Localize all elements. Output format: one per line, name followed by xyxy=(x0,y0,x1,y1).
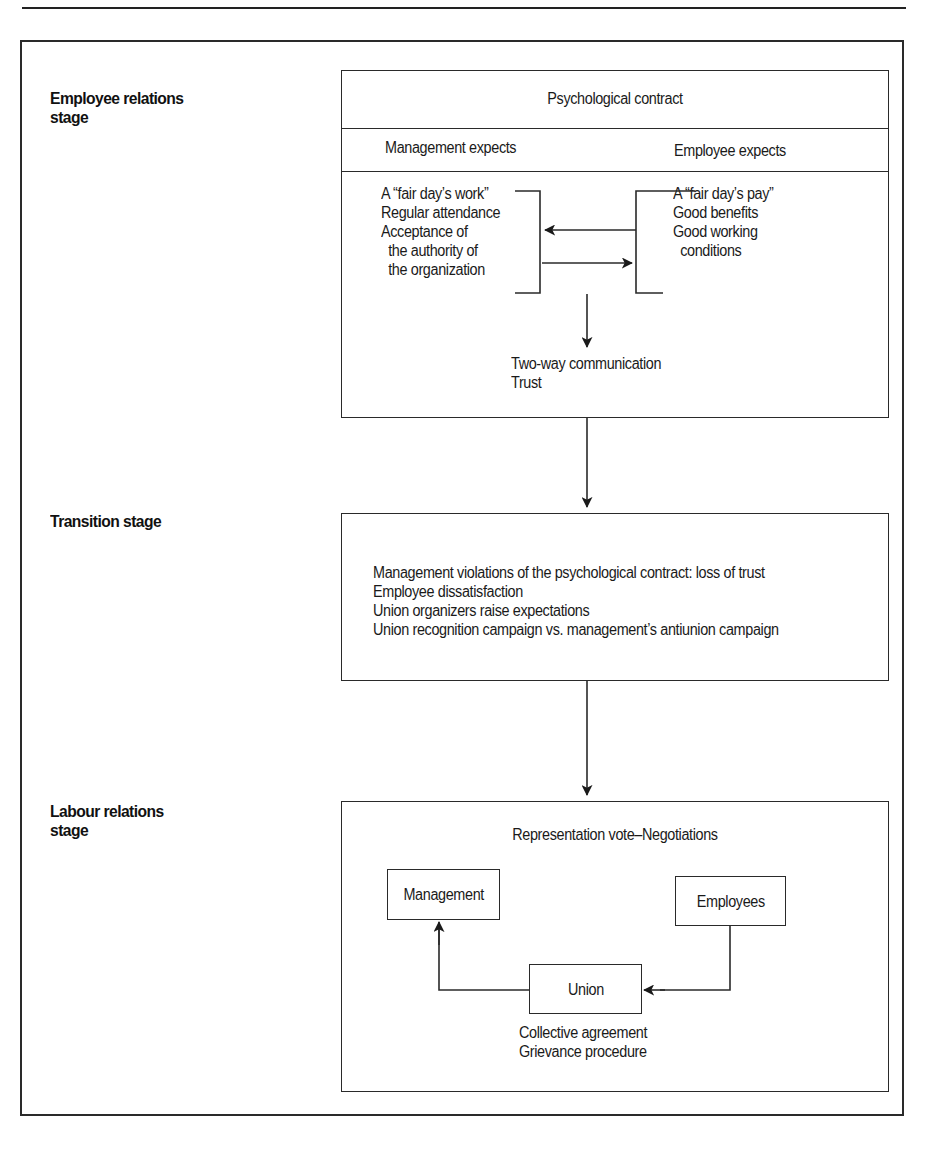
list-item: Two-way communication xyxy=(511,354,661,373)
list-item: the organization xyxy=(381,260,500,279)
list-item: Grievance procedure xyxy=(519,1042,647,1061)
list-item: Good benefits xyxy=(673,203,774,222)
stage-label-line: Employee relations xyxy=(50,89,183,108)
divider xyxy=(341,128,889,129)
management-node-label: Management xyxy=(403,885,483,904)
list-item: conditions xyxy=(673,241,774,260)
list-item: Collective agreement xyxy=(519,1023,647,1042)
divider xyxy=(341,171,889,172)
list-item: Union organizers raise expectations xyxy=(373,601,779,620)
stage-label-labour-relations: Labour relations stage xyxy=(50,802,164,840)
management-expectations-list: A “fair day’s work” Regular attendance A… xyxy=(381,184,513,279)
top-rule xyxy=(22,7,906,9)
list-item: Employee dissatisfaction xyxy=(373,582,779,601)
employees-node-label: Employees xyxy=(696,892,764,911)
transition-items-list: Management violations of the psychologic… xyxy=(373,563,824,639)
stage-label-line: stage xyxy=(50,821,164,840)
list-item: Trust xyxy=(511,373,661,392)
stage-label-line: Labour relations xyxy=(50,802,164,821)
employees-node: Employees xyxy=(675,876,786,926)
stage-label-line: Transition stage xyxy=(50,512,161,531)
employee-expects-header: Employee expects xyxy=(674,141,786,160)
labour-outcomes: Collective agreement Grievance procedure xyxy=(519,1023,661,1061)
relationship-outcomes: Two-way communication Trust xyxy=(511,354,678,392)
list-item: Acceptance of xyxy=(381,222,500,241)
stage-label-line: stage xyxy=(50,108,183,127)
stage-label-employee-relations: Employee relations stage xyxy=(50,89,183,127)
union-node-label: Union xyxy=(568,980,604,999)
representation-vote-title: Representation vote–Negotiations xyxy=(368,825,861,844)
psychological-contract-title: Psychological contract xyxy=(368,89,861,108)
list-item: Union recognition campaign vs. managemen… xyxy=(373,620,779,639)
list-item: Good working xyxy=(673,222,774,241)
stage-label-transition: Transition stage xyxy=(50,512,161,531)
management-expects-header: Management expects xyxy=(385,138,516,157)
union-node: Union xyxy=(529,964,642,1014)
employee-expectations-list: A “fair day’s pay” Good benefits Good wo… xyxy=(673,184,785,260)
management-node: Management xyxy=(387,869,500,920)
list-item: Regular attendance xyxy=(381,203,500,222)
list-item: Management violations of the psychologic… xyxy=(373,563,779,582)
list-item: the authority of xyxy=(381,241,500,260)
list-item: A “fair day’s work” xyxy=(381,184,500,203)
list-item: A “fair day’s pay” xyxy=(673,184,774,203)
